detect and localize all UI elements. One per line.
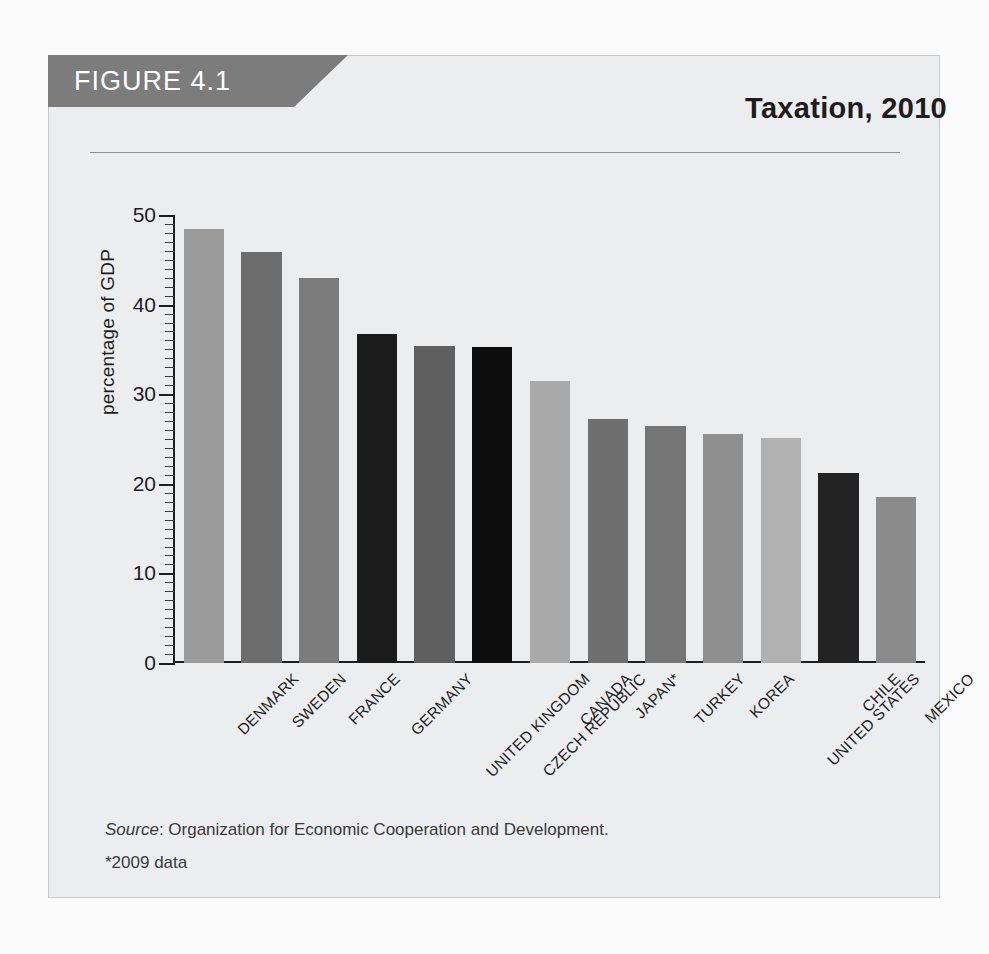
y-axis-minor-tick	[165, 564, 175, 565]
y-axis-minor-tick	[165, 582, 175, 583]
y-axis-minor-tick	[165, 439, 175, 440]
y-axis-minor-tick	[165, 618, 175, 619]
y-axis-tick-label: 40	[108, 293, 156, 317]
y-axis-major-tick	[159, 663, 175, 665]
y-axis-minor-tick	[165, 529, 175, 530]
y-axis-minor-tick	[165, 376, 175, 377]
y-axis-minor-tick	[165, 654, 175, 655]
y-axis-minor-tick	[165, 421, 175, 422]
y-axis-major-tick	[159, 573, 175, 575]
y-axis-tick-label: 50	[108, 203, 156, 227]
y-axis-minor-tick	[165, 331, 175, 332]
y-axis-minor-tick	[165, 340, 175, 341]
bar[interactable]	[818, 473, 858, 663]
bar[interactable]	[645, 426, 685, 663]
source-label: Source	[105, 820, 159, 839]
bar-series	[175, 215, 925, 663]
y-axis-minor-tick	[165, 457, 175, 458]
y-axis-minor-tick	[165, 448, 175, 449]
y-axis-minor-tick	[165, 287, 175, 288]
y-axis-minor-tick	[165, 538, 175, 539]
footnote: *2009 data	[105, 853, 187, 873]
bar-slot	[694, 215, 752, 663]
bar-slot	[233, 215, 291, 663]
y-axis-minor-tick	[165, 475, 175, 476]
bar[interactable]	[530, 381, 570, 663]
bar[interactable]	[761, 438, 801, 663]
y-axis-minor-tick	[165, 385, 175, 386]
source-note: Source: Organization for Economic Cooper…	[105, 820, 609, 840]
y-axis-tick-label: 10	[108, 561, 156, 585]
bar-slot	[521, 215, 579, 663]
bar[interactable]	[414, 346, 454, 663]
y-axis-minor-tick	[165, 323, 175, 324]
bar-slot	[463, 215, 521, 663]
y-axis-tick-label: 30	[108, 382, 156, 406]
source-text: : Organization for Economic Cooperation …	[159, 820, 609, 839]
y-axis-minor-tick	[165, 412, 175, 413]
bar-slot	[406, 215, 464, 663]
bar-slot	[290, 215, 348, 663]
y-axis-minor-tick	[165, 269, 175, 270]
bar-slot	[810, 215, 868, 663]
y-axis-minor-tick	[165, 627, 175, 628]
x-axis-tick-label: DENMARK	[234, 670, 303, 739]
y-axis-major-tick	[159, 394, 175, 396]
y-axis-minor-tick	[165, 591, 175, 592]
y-axis-minor-tick	[165, 233, 175, 234]
y-axis-minor-tick	[165, 278, 175, 279]
figure-number-label: FIGURE 4.1	[74, 66, 231, 97]
bar[interactable]	[703, 434, 743, 663]
figure-page: of the government and from savings reven…	[0, 0, 989, 954]
y-axis-minor-tick	[165, 502, 175, 503]
bar-slot	[579, 215, 637, 663]
bar[interactable]	[472, 347, 512, 663]
chart-title: Taxation, 2010	[745, 92, 947, 125]
bar-slot	[637, 215, 695, 663]
y-axis-minor-tick	[165, 251, 175, 252]
y-axis-minor-tick	[165, 466, 175, 467]
y-axis-minor-tick	[165, 367, 175, 368]
y-axis-minor-tick	[165, 555, 175, 556]
bar-slot	[867, 215, 925, 663]
bar[interactable]	[876, 497, 916, 663]
chart-plot-area: percentage of GDP 01020304050 DENMARKSWE…	[105, 200, 925, 680]
x-axis-tick-label: TURKEY	[691, 670, 749, 728]
y-axis-minor-tick	[165, 511, 175, 512]
y-axis-minor-tick	[165, 403, 175, 404]
x-axis-tick-label: FRANCE	[345, 670, 404, 729]
y-axis-major-tick	[159, 305, 175, 307]
x-axis-tick-label: KOREA	[746, 670, 798, 722]
y-axis-minor-tick	[165, 493, 175, 494]
y-axis-minor-tick	[165, 296, 175, 297]
y-axis-major-tick	[159, 484, 175, 486]
x-axis-tick-label: UNITED KINGDOM	[482, 670, 593, 781]
bar[interactable]	[241, 252, 281, 663]
y-axis-tick-label: 0	[108, 651, 156, 675]
title-divider-rule	[90, 152, 900, 153]
y-axis-minor-tick	[165, 349, 175, 350]
y-axis-minor-tick	[165, 609, 175, 610]
y-axis-minor-tick	[165, 314, 175, 315]
bar-slot	[752, 215, 810, 663]
y-axis-minor-tick	[165, 547, 175, 548]
y-axis-minor-tick	[165, 600, 175, 601]
y-axis-minor-tick	[165, 645, 175, 646]
bar[interactable]	[588, 419, 628, 663]
x-axis-tick-label: GERMANY	[407, 670, 476, 739]
y-axis-tick-labels: 01020304050	[105, 200, 155, 680]
x-axis-tick-label: CZECH REPUBLIC	[540, 670, 650, 780]
y-axis-major-tick	[159, 215, 175, 217]
y-axis-minor-tick	[165, 520, 175, 521]
y-axis-minor-tick	[165, 224, 175, 225]
x-axis-category-labels: DENMARKSWEDENFRANCEGERMANYUNITED KINGDOM…	[175, 670, 925, 800]
bar[interactable]	[357, 334, 397, 663]
y-axis-minor-tick	[165, 358, 175, 359]
y-axis-tick-label: 20	[108, 472, 156, 496]
y-axis-minor-tick	[165, 242, 175, 243]
bar[interactable]	[184, 229, 224, 663]
bar-slot	[175, 215, 233, 663]
y-axis-minor-tick	[165, 430, 175, 431]
bar[interactable]	[299, 278, 339, 663]
bar-slot	[348, 215, 406, 663]
